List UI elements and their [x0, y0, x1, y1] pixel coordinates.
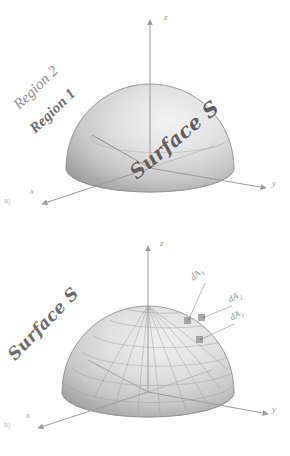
area-element-patch-2 [198, 314, 205, 321]
panel-label-a: a) [4, 197, 11, 204]
area-element-patch-1 [196, 336, 203, 343]
y-axis-label-a: y [272, 178, 276, 188]
figure-panel-b: z y x Surface S dA3 dA2 dA1 b) [0, 228, 290, 456]
z-axis-label-a: z [164, 12, 168, 22]
panel-a-scene: z y x Region 2 Region 1 Surface S a) [0, 0, 290, 228]
figure-panel-a: z y x Region 2 Region 1 Surface S a) [0, 0, 290, 228]
panel-b-drawing [0, 228, 290, 456]
panel-b-scene: z y x Surface S dA3 dA2 dA1 b) [0, 228, 290, 456]
z-axis-label-b: z [160, 238, 164, 248]
x-axis-label-b: x [26, 410, 30, 420]
x-axis-label-a: x [30, 186, 34, 196]
area-element-patch-3 [184, 317, 191, 324]
da2-leader [202, 306, 232, 318]
y-axis-label-b: y [272, 404, 276, 414]
panel-label-b: b) [4, 421, 11, 428]
